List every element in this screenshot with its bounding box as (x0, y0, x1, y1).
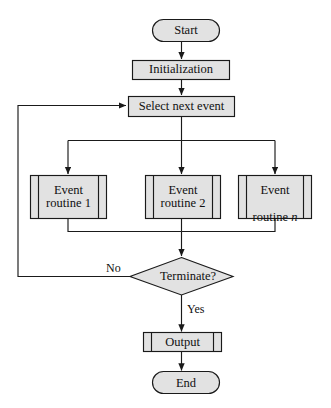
node-event-routine-1 (31, 176, 107, 219)
node-select-next-event (129, 97, 235, 117)
node-terminate-decision (130, 258, 233, 296)
edge-label-no: No (106, 262, 121, 274)
node-event-routine-n (239, 176, 312, 219)
node-end (153, 372, 220, 394)
node-event-routine-2 (146, 176, 221, 219)
node-output (144, 333, 222, 352)
node-initialization (133, 61, 230, 80)
edge-ev1-to-merge (68, 219, 182, 232)
node-start (153, 20, 220, 42)
edge-ev3-to-merge (182, 219, 276, 232)
flowchart-canvas: Start Initialization Select next event E… (0, 0, 331, 408)
edge-label-yes: Yes (187, 303, 204, 315)
flowchart-diagram (0, 0, 331, 408)
